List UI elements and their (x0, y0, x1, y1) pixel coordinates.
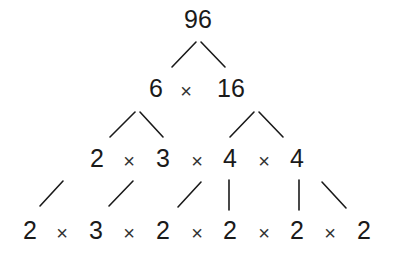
leaf-2: 2 (354, 218, 374, 243)
times-sign: × (254, 221, 274, 246)
node-6: 6 (146, 76, 166, 101)
edge-96-16 (201, 42, 225, 67)
leaf-2: 2 (153, 218, 173, 243)
times-sign: × (254, 149, 274, 174)
times-sign: × (119, 221, 139, 246)
edge-4a-2a (178, 182, 201, 207)
edge-4b-2b (322, 182, 346, 208)
node-4-left: 4 (220, 146, 240, 171)
edge-6-2 (110, 112, 135, 137)
node-96: 96 (180, 7, 216, 32)
leaf-2: 2 (287, 218, 307, 243)
edge-6-3 (140, 112, 163, 137)
node-3: 3 (153, 146, 173, 171)
node-4-right: 4 (287, 146, 307, 171)
times-sign: × (187, 149, 207, 174)
edge-2-2 (40, 181, 63, 206)
edge-16-4b (259, 112, 283, 137)
leaf-2: 2 (220, 218, 240, 243)
times-sign: × (187, 221, 207, 246)
node-16: 16 (213, 76, 249, 101)
edge-3-3 (109, 181, 133, 206)
edge-96-6 (172, 42, 196, 67)
times-sign: × (119, 149, 139, 174)
edge-16-4a (230, 112, 254, 137)
times-sign: × (52, 221, 72, 246)
leaf-2: 2 (20, 218, 40, 243)
node-2: 2 (87, 146, 107, 171)
times-sign: × (176, 79, 196, 104)
leaf-3: 3 (86, 218, 106, 243)
times-sign: × (320, 221, 340, 246)
